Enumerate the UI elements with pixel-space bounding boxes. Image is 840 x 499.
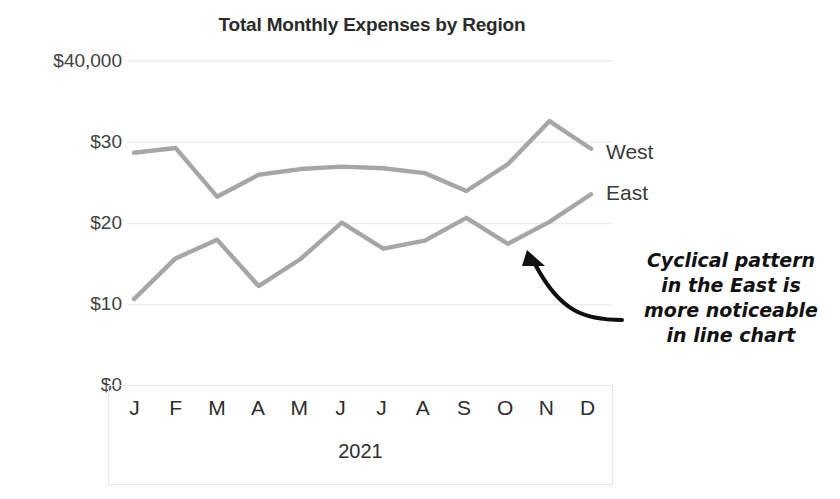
x-tick-label-aug: A bbox=[402, 396, 443, 420]
x-tick-label-feb: F bbox=[155, 396, 196, 420]
x-tick-label-dec: D bbox=[567, 396, 608, 420]
x-tick-label-apr: A bbox=[238, 396, 279, 420]
line-chart-figure: Total Monthly Expenses by Region $40,000… bbox=[0, 0, 840, 499]
x-tick-label-nov: N bbox=[526, 396, 567, 420]
annotation-line-4: in line chart bbox=[625, 323, 837, 348]
x-tick-label-oct: O bbox=[485, 396, 526, 420]
series-label-east: East bbox=[606, 181, 648, 205]
x-axis-title: 2021 bbox=[108, 440, 613, 463]
x-tick-label-mar: M bbox=[196, 396, 237, 420]
x-tick-label-sep: S bbox=[443, 396, 484, 420]
series-line-east bbox=[134, 194, 591, 299]
annotation-line-1: Cyclical pattern bbox=[625, 248, 837, 273]
series-line-west bbox=[134, 121, 591, 197]
x-axis-tick-labels: J F M A M J J A S O N D bbox=[114, 396, 608, 420]
annotation-arrow-icon bbox=[522, 250, 622, 320]
annotation-line-2: in the East is bbox=[625, 273, 837, 298]
x-tick-label-may: M bbox=[279, 396, 320, 420]
x-tick-label-jul: J bbox=[361, 396, 402, 420]
annotation-line-3: more noticeable bbox=[625, 298, 837, 323]
x-tick-label-jan: J bbox=[114, 396, 155, 420]
annotation-cyclical-pattern: Cyclical pattern in the East is more not… bbox=[625, 248, 837, 348]
x-tick-label-jun: J bbox=[320, 396, 361, 420]
series-label-west: West bbox=[606, 140, 653, 164]
